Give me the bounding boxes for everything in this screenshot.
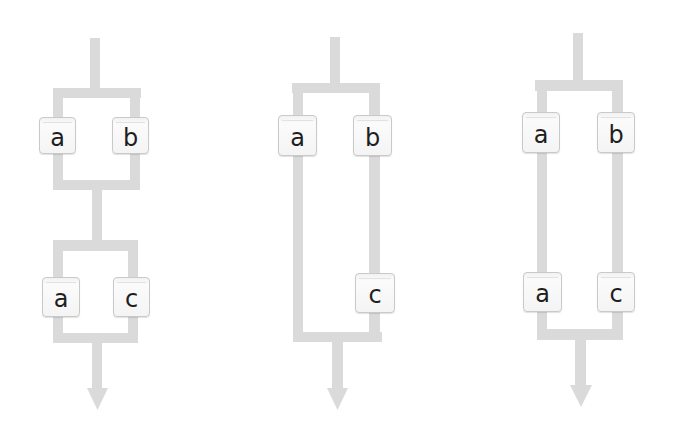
component-box-a: a: [39, 117, 76, 154]
component-label: c: [609, 282, 622, 306]
component-box-b: b: [597, 112, 635, 153]
component-box-a: a: [522, 112, 560, 153]
diagram-canvas: a b a c a b c a b a c: [0, 0, 674, 430]
component-box-a: a: [278, 115, 317, 156]
component-box-c: c: [597, 272, 635, 312]
component-label: a: [290, 126, 305, 150]
component-box-a: a: [42, 277, 80, 317]
component-box-a: a: [523, 272, 562, 312]
component-box-c: c: [113, 277, 150, 317]
diagram-2-wires: [292, 37, 382, 410]
component-label: c: [125, 287, 138, 311]
component-label: a: [535, 282, 550, 306]
component-label: b: [365, 126, 380, 150]
component-label: b: [123, 126, 138, 150]
component-label: a: [50, 126, 65, 150]
component-label: b: [608, 123, 623, 147]
component-box-c: c: [355, 273, 395, 313]
wires: [0, 0, 674, 430]
component-label: a: [54, 287, 69, 311]
component-label: c: [368, 283, 381, 307]
diagram-3-wires: [535, 33, 623, 407]
component-box-b: b: [112, 117, 149, 154]
component-label: a: [534, 123, 549, 147]
component-box-b: b: [353, 115, 392, 156]
diagram-1-wires: [53, 38, 141, 410]
